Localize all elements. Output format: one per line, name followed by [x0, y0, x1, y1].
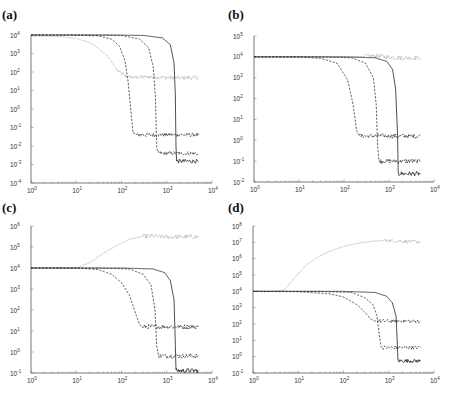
- y-tick-label: 100: [233, 136, 243, 144]
- panel-label-c: (c): [2, 200, 16, 215]
- y-tick-label: 102: [232, 320, 242, 328]
- series-dash-2: [253, 291, 420, 349]
- x-tick-label: 104: [430, 376, 440, 384]
- y-tick-label: 106: [10, 222, 20, 230]
- y-tick-label: 105: [233, 32, 243, 40]
- y-tick-label: 106: [232, 254, 242, 262]
- series-solid: [31, 35, 198, 163]
- x-tick-label: 104: [430, 185, 440, 193]
- axes-frame: [253, 226, 434, 373]
- y-tick-label: 103: [10, 285, 20, 293]
- y-tick-label: 103: [232, 303, 242, 311]
- y-tick-label: 104: [232, 287, 242, 295]
- series-dash-1: [31, 35, 198, 137]
- x-tick-label: 101: [294, 376, 304, 384]
- y-tick-label: 10-1: [10, 369, 22, 377]
- y-tick-label: 102: [233, 94, 243, 102]
- x-tick-label: 100: [27, 376, 37, 384]
- panel-label-b: (b): [228, 7, 244, 22]
- panel-a: (a) 10010110210310410410310210110010-110…: [2, 7, 218, 194]
- series-dash-1: [254, 57, 420, 138]
- axes-frame: [31, 226, 212, 373]
- y-tick-label: 105: [10, 243, 20, 251]
- y-tick-label: 103: [233, 73, 243, 81]
- figure: (a) 10010110210310410410310210110010-110…: [0, 0, 452, 397]
- x-tick-label: 102: [340, 376, 350, 384]
- x-tick-label: 101: [295, 185, 305, 193]
- y-tick-label: 104: [10, 31, 20, 39]
- series-dash-1: [253, 291, 420, 322]
- y-tick-label: 101: [10, 86, 20, 94]
- series-dash-2: [31, 35, 198, 155]
- series-dash-2: [254, 57, 420, 164]
- y-tick-label: 101: [232, 336, 242, 344]
- x-tick-label: 102: [118, 186, 128, 194]
- y-tick-label: 101: [233, 115, 243, 123]
- panel-c: (c) 100101102103104106105104103102101100…: [2, 200, 218, 384]
- y-tick-label: 10-4: [10, 179, 22, 187]
- panel-b: (b) 10010110210310410510410310210110010-…: [228, 7, 440, 193]
- y-tick-label: 10-1: [233, 157, 245, 165]
- y-tick-label: 103: [10, 49, 20, 57]
- x-tick-label: 103: [163, 376, 173, 384]
- x-tick-label: 103: [385, 376, 395, 384]
- y-tick-label: 100: [232, 352, 242, 360]
- y-tick-label: 105: [232, 271, 242, 279]
- y-tick-label: 10-2: [233, 178, 245, 186]
- x-tick-label: 104: [208, 376, 218, 384]
- series-solid: [31, 268, 198, 373]
- x-tick-label: 101: [72, 376, 82, 384]
- y-tick-label: 101: [10, 327, 20, 335]
- y-tick-label: 104: [10, 264, 20, 272]
- panel-label-d: (d): [228, 200, 244, 215]
- panel-label-a: (a): [2, 7, 17, 22]
- y-tick-label: 100: [10, 105, 20, 113]
- y-tick-label: 10-1: [232, 369, 244, 377]
- y-tick-label: 102: [10, 68, 20, 76]
- x-tick-label: 103: [163, 186, 173, 194]
- y-tick-label: 107: [232, 238, 242, 246]
- series-dash-1: [31, 268, 198, 329]
- series-solid: [253, 291, 420, 362]
- y-tick-label: 108: [232, 222, 242, 230]
- x-tick-label: 100: [250, 185, 260, 193]
- x-tick-label: 102: [118, 376, 128, 384]
- y-tick-label: 102: [10, 306, 20, 314]
- series-dash-2: [31, 268, 198, 358]
- y-tick-label: 10-2: [10, 142, 22, 150]
- x-tick-label: 103: [385, 185, 395, 193]
- x-tick-label: 100: [27, 186, 37, 194]
- x-tick-label: 100: [249, 376, 259, 384]
- x-tick-label: 102: [340, 185, 350, 193]
- y-tick-label: 10-1: [10, 123, 22, 131]
- x-tick-label: 104: [208, 186, 218, 194]
- y-tick-label: 100: [10, 348, 20, 356]
- series-solid: [254, 57, 420, 176]
- y-tick-label: 104: [233, 52, 243, 60]
- x-tick-label: 101: [72, 186, 82, 194]
- series-dotted-gray: [31, 234, 198, 268]
- y-tick-label: 10-3: [10, 160, 22, 168]
- series-dotted-gray: [253, 239, 420, 291]
- panel-d: (d) 100101102103104108107106105104103102…: [228, 200, 440, 384]
